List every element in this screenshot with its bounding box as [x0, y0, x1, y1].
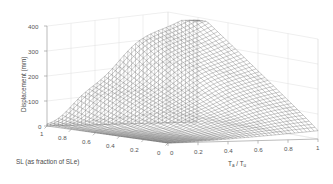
x-tick-1: 1 [40, 130, 44, 137]
x-tick-0: 0 [157, 149, 161, 156]
z-axis-title: Displacement (mm) [20, 57, 27, 112]
x-tick-0-6: 0.6 [82, 138, 91, 145]
z-tick-400: 400 [28, 23, 39, 30]
y-tick-0: 0 [170, 149, 174, 156]
z-axis [44, 26, 47, 126]
y-axis-title-sub2: u [244, 163, 247, 168]
y-tick-0-4: 0.4 [224, 147, 233, 154]
plot-canvas [0, 0, 333, 184]
x-tick-0-2: 0.2 [130, 146, 139, 153]
z-tick-100: 100 [28, 98, 39, 105]
x-axis-title: SL (as fraction of SLe) [16, 158, 79, 165]
y-tick-0-6: 0.6 [254, 146, 263, 153]
y-tick-0-8: 0.8 [284, 145, 293, 152]
y-axis [168, 139, 318, 146]
y-axis-title-div: / T [234, 160, 243, 167]
x-tick-0-8: 0.8 [58, 134, 67, 141]
z-tick-0: 0 [38, 123, 42, 130]
x-tick-0-4: 0.4 [106, 142, 115, 149]
z-tick-200: 200 [28, 73, 39, 80]
y-tick-1: 1 [316, 144, 320, 151]
y-axis-title: Ta / Tu [228, 160, 246, 168]
y-tick-0-2: 0.2 [194, 148, 203, 155]
z-tick-300: 300 [28, 48, 39, 55]
surface-plot-figure: 400 300 200 100 0 1 0.8 0.6 0.4 0.2 0 0 … [0, 0, 333, 184]
